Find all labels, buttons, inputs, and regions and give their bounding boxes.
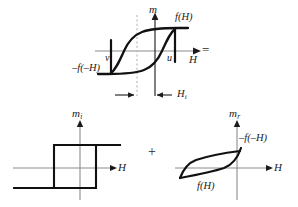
panel-rectangular-loop: [13, 120, 121, 200]
main-loop-upper-branch-label: f(H): [175, 12, 193, 23]
rect-loop-m-axis-arrowhead: [77, 120, 83, 127]
rect-loop-h-axis-arrowhead: [110, 165, 117, 171]
figure-root: m H f(H) –f(–H) v u Hi = mi H + mr H –f(…: [0, 0, 298, 207]
rev-curves-lower-branch-label: f(H): [197, 181, 215, 192]
rev-curves-m-axis-label-subscript: r: [237, 112, 240, 121]
main-loop-measure-label-base: H: [177, 88, 185, 99]
rev-curves-h-axis-arrowhead: [266, 165, 273, 171]
main-loop-h-axis-label: H: [189, 54, 197, 65]
rect-loop-m-axis-label: mi: [72, 108, 82, 120]
rev-curves-h-axis-label: H: [274, 162, 282, 173]
rect-loop-m-axis-label-base: m: [72, 107, 80, 119]
main-loop-lower-branch-label: –f(–H): [72, 63, 100, 74]
rev-curves-m-axis-label-base: m: [229, 107, 237, 119]
rev-curves-upper-branch-label: –f(–H): [239, 133, 267, 144]
main-loop-right-switch-label: u: [167, 53, 172, 63]
plus-operator: +: [148, 145, 156, 159]
rev-curves-m-axis-arrowhead: [234, 120, 240, 127]
main-loop-measure-label-subscript: i: [185, 93, 187, 101]
rect-loop-h-axis-label: H: [118, 162, 126, 173]
rev-curves-m-axis-label: mr: [229, 108, 240, 120]
equals-operator: =: [202, 43, 209, 56]
figure-canvas: [0, 0, 298, 207]
rect-loop-m-axis-label-subscript: i: [80, 112, 82, 121]
panel-main-loop: [95, 13, 201, 97]
main-loop-measure-label: Hi: [177, 89, 187, 101]
main-loop-m-axis-label: m: [149, 4, 157, 15]
main-loop-left-switch-label: v: [105, 53, 109, 63]
